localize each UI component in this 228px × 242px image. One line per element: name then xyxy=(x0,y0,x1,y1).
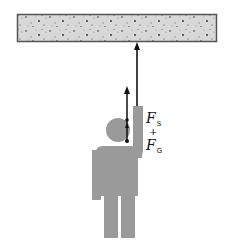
diagram-canvas: FS + FG xyxy=(0,0,228,242)
force-label-fs: FS xyxy=(146,110,160,126)
person-figure xyxy=(92,106,143,238)
rope-arrowhead-icon xyxy=(134,42,140,50)
force-label-fg: FG xyxy=(146,137,161,153)
force-label-plus: + xyxy=(149,126,157,137)
force-arrowhead-icon xyxy=(124,86,130,94)
rope-line xyxy=(134,42,140,106)
ceiling-slab xyxy=(18,15,217,42)
